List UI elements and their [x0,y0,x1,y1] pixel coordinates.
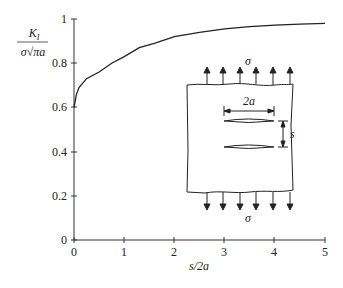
x-axis-label: s/2a [189,259,209,273]
bottom-stress-arrows [204,192,293,210]
plate-diagram [187,67,293,210]
svg-text:0: 0 [71,245,77,259]
crack-length-label: 2a [243,94,255,108]
svg-text:1: 1 [61,12,67,26]
svg-text:KI: KI [28,26,40,42]
svg-text:0.2: 0.2 [52,189,67,203]
y-axis-label: KI σ√πa [17,26,48,59]
svg-text:0: 0 [61,233,67,247]
svg-text:0.6: 0.6 [52,100,67,114]
svg-text:1: 1 [121,245,127,259]
y-tick-labels: 1 0.8 0.6 0.4 0.2 0 [52,12,67,247]
top-stress-arrows [204,67,293,85]
sigma-top-label: σ [245,54,252,68]
svg-text:2: 2 [171,245,177,259]
sigma-bottom-label: σ [245,211,252,225]
svg-text:3: 3 [221,245,227,259]
svg-text:0.4: 0.4 [52,145,67,159]
svg-text:σ√πa: σ√πa [21,45,46,59]
svg-text:4: 4 [271,245,277,259]
x-tick-labels: 0 1 2 3 4 5 [71,245,328,259]
chart: 1 0.8 0.6 0.4 0.2 0 0 1 2 3 4 5 s/2a KI … [0,0,343,288]
crack-spacing-label: s [290,127,295,141]
svg-text:0.8: 0.8 [52,56,67,70]
svg-text:5: 5 [322,245,328,259]
